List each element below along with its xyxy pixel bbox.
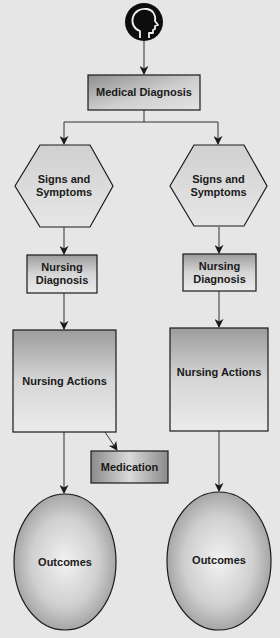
left-nursing-diagnosis-box	[27, 255, 97, 293]
right-signs-hexagon	[170, 145, 267, 226]
right-outcomes-oval	[167, 492, 271, 630]
medical-diagnosis-box	[88, 75, 200, 110]
flowchart-graphics	[0, 0, 280, 638]
medication-box	[91, 451, 168, 483]
flowchart-canvas: Medical Diagnosis Signs and Symptoms Sig…	[0, 0, 280, 638]
left-signs-hexagon	[15, 145, 113, 227]
arrow-actions-to-medication	[105, 432, 117, 450]
right-nursing-actions-box	[170, 328, 268, 431]
head-profile-icon	[125, 3, 163, 41]
right-nursing-diagnosis-box	[183, 254, 256, 291]
left-nursing-actions-box	[13, 330, 116, 432]
left-outcomes-oval	[14, 494, 116, 630]
